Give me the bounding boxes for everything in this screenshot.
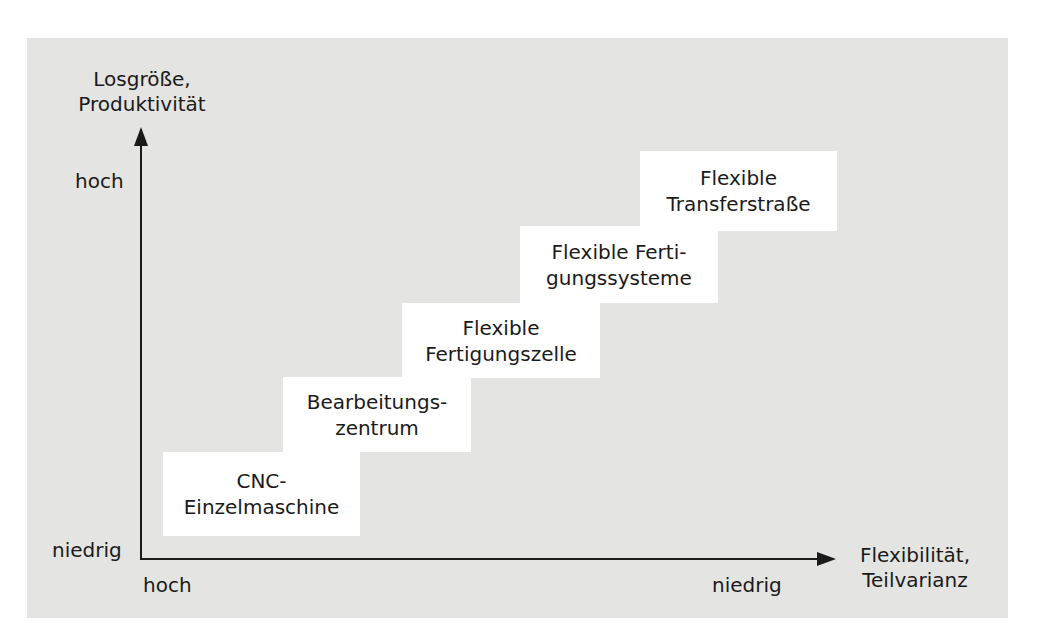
step-flexible-transferstrasse: Flexible Transferstraße <box>640 151 837 231</box>
y-axis-title-line-2: Produktivität <box>72 92 212 117</box>
step-flexible-fertigungszelle: Flexible Fertigungszelle <box>402 303 600 378</box>
step-label-line: gungssysteme <box>546 265 692 291</box>
step-label-line: zentrum <box>335 415 419 441</box>
x-axis-arrow-icon <box>817 552 836 566</box>
step-label-line: CNC- <box>236 468 286 494</box>
step-bearbeitungszentrum: Bearbeitungs- zentrum <box>283 377 471 452</box>
step-label-line: Transferstraße <box>666 191 810 217</box>
x-axis-title-line-1: Flexibilität, <box>850 543 980 568</box>
step-label-line: Flexible Ferti- <box>552 239 687 265</box>
x-axis-title: Flexibilität, Teilvarianz <box>850 543 980 593</box>
y-axis-high-label: hoch <box>75 169 124 194</box>
y-axis-arrow-icon <box>134 127 148 146</box>
y-axis-low-label: niedrig <box>52 538 122 563</box>
step-label-line: Flexible <box>700 165 777 191</box>
step-label-line: Bearbeitungs- <box>307 389 448 415</box>
x-axis-title-line-2: Teilvarianz <box>850 568 980 593</box>
step-flexible-fertigungssysteme: Flexible Ferti- gungssysteme <box>520 226 718 303</box>
step-label-line: Flexible <box>463 315 540 341</box>
y-axis-title-line-1: Losgröße, <box>72 67 212 92</box>
x-axis-end-label: niedrig <box>712 573 782 598</box>
step-label-line: Einzelmaschine <box>184 494 340 520</box>
x-axis-start-label: hoch <box>143 573 192 598</box>
step-label-line: Fertigungszelle <box>425 341 577 367</box>
y-axis-title: Losgröße, Produktivität <box>72 67 212 117</box>
step-cnc-einzelmaschine: CNC- Einzelmaschine <box>163 452 360 536</box>
